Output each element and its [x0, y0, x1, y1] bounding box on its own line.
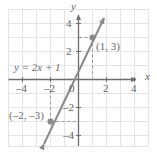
point-label-neg2-neg3: (–2, –3) [9, 110, 44, 121]
y-tick-label-4: 4 [66, 18, 72, 29]
coordinate-plane [0, 0, 157, 153]
x-axis-label: x [145, 71, 150, 82]
origin-label: 0 [69, 83, 75, 94]
point-label-1-3: (1, 3) [96, 41, 120, 52]
graph-figure: y x y = 2x + 1 (1, 3) (–2, –3) –4 –2 0 2… [0, 0, 157, 153]
y-tick-label-neg4: –4 [63, 130, 74, 141]
equation-label: y = 2x + 1 [14, 62, 61, 73]
y-tick-label-2: 2 [66, 46, 72, 57]
x-tick-label-4: 4 [131, 83, 137, 94]
y-tick-label-neg2: –2 [63, 102, 74, 113]
point-marker-neg2-neg3 [47, 118, 53, 124]
axes [9, 15, 137, 146]
x-tick-label-2: 2 [103, 83, 109, 94]
x-tick-label-neg2: –2 [44, 83, 55, 94]
point-marker-1-3 [89, 34, 95, 40]
x-tick-label-neg4: –4 [16, 83, 27, 94]
y-axis-label: y [71, 1, 76, 12]
